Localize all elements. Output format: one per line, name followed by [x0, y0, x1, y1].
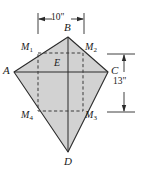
midpoint-label-m3-subscript: 3 — [94, 114, 98, 122]
midpoint-label-m2-subscript: 2 — [94, 46, 98, 54]
midpoint-label-m1-letter: M — [21, 41, 29, 52]
kite-diagram-svg — [0, 0, 143, 180]
dim-height-arrow-bottom — [122, 105, 126, 112]
dim-width-arrow-right — [77, 17, 84, 22]
kite-figure: A B C D E M1 M2 M3 M4 10" 13" — [0, 0, 143, 180]
midpoint-label-m1-subscript: 1 — [30, 46, 34, 54]
vertex-label-c: C — [111, 65, 118, 76]
dimension-label-height: 13" — [113, 77, 126, 87]
kite-outline — [14, 37, 108, 152]
midpoint-label-m4-subscript: 4 — [30, 114, 34, 122]
midpoint-label-m3: M3 — [85, 110, 97, 122]
dim-width-arrow-left — [38, 17, 45, 22]
midpoint-label-m1: M1 — [21, 42, 33, 54]
dim-height-arrow-top — [122, 54, 126, 61]
midpoint-label-m4-letter: M — [21, 109, 29, 120]
vertex-label-a: A — [3, 65, 10, 76]
vertex-label-b: B — [64, 22, 71, 33]
midpoint-label-m2-letter: M — [85, 41, 93, 52]
center-point-label-e: E — [54, 58, 60, 68]
dimension-label-width: 10" — [51, 13, 64, 23]
midpoint-label-m2: M2 — [85, 42, 97, 54]
vertex-label-d: D — [64, 156, 72, 167]
midpoint-label-m3-letter: M — [85, 109, 93, 120]
midpoint-label-m4: M4 — [21, 110, 33, 122]
